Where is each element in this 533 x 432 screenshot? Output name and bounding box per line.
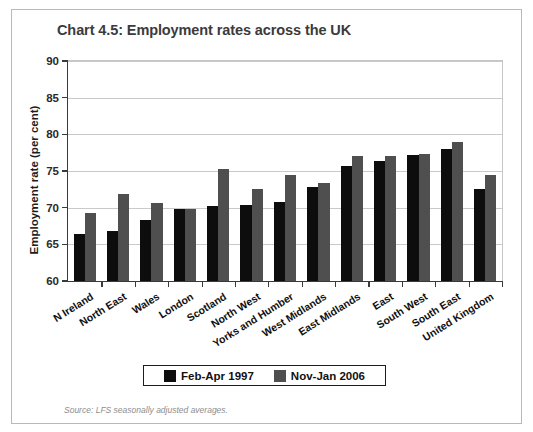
bar-group — [68, 61, 101, 281]
bar-group — [135, 61, 168, 281]
bar — [185, 209, 196, 281]
y-tick-label-75: 75 — [46, 165, 59, 177]
x-tick-mark — [469, 281, 470, 287]
x-tick-mark — [168, 281, 169, 287]
bar — [385, 156, 396, 281]
y-tick-label-65: 65 — [46, 238, 59, 250]
bar — [341, 166, 352, 281]
bar-group — [469, 61, 502, 281]
y-tick-label-70: 70 — [46, 202, 59, 214]
bar — [274, 202, 285, 281]
bar — [85, 213, 96, 281]
bar — [207, 206, 218, 281]
y-axis-title: Employment rate (per cent) — [26, 69, 42, 291]
bar — [218, 169, 229, 281]
bar — [107, 231, 118, 281]
legend-swatch — [274, 370, 286, 382]
bar — [441, 149, 452, 281]
y-tick-label-80: 80 — [46, 128, 59, 140]
bar — [151, 203, 162, 281]
chart-figure-frame: Chart 4.5: Employment rates across the U… — [11, 9, 522, 424]
x-tick-mark — [402, 281, 403, 287]
bar — [452, 142, 463, 281]
bar-group — [268, 61, 301, 281]
y-tick-label-90: 90 — [46, 55, 59, 67]
bar — [474, 189, 485, 281]
plot-area: 60657075808590N IrelandNorth EastWalesLo… — [67, 60, 503, 282]
legend-entry: Nov-Jan 2006 — [274, 370, 365, 382]
x-tick-mark — [202, 281, 203, 287]
bar — [419, 154, 430, 281]
bar-group — [302, 61, 335, 281]
bar — [240, 205, 251, 281]
bar-group — [202, 61, 235, 281]
legend-swatch — [164, 370, 176, 382]
bar — [352, 156, 363, 281]
bar — [285, 175, 296, 281]
x-tick-mark — [435, 281, 436, 287]
bar — [485, 175, 496, 281]
source-note: Source: LFS seasonally adjusted averages… — [64, 405, 228, 415]
x-tick-mark — [302, 281, 303, 287]
bar-group — [235, 61, 268, 281]
x-tick-mark — [268, 281, 269, 287]
bar-group — [335, 61, 368, 281]
bar-group — [368, 61, 401, 281]
x-tick-mark — [135, 281, 136, 287]
x-tick-mark — [101, 281, 102, 287]
x-tick-mark — [335, 281, 336, 287]
bar — [74, 234, 85, 281]
bar — [174, 209, 185, 281]
y-tick-label-60: 60 — [46, 275, 59, 287]
y-axis-title-label: Employment rate (per cent) — [28, 106, 40, 255]
bar — [374, 161, 385, 281]
x-tick-mark — [502, 281, 503, 287]
bar — [140, 220, 151, 281]
bar — [118, 194, 129, 281]
chart-title: Chart 4.5: Employment rates across the U… — [57, 22, 351, 38]
x-tick-mark — [235, 281, 236, 287]
x-tick-mark — [368, 281, 369, 287]
legend-label: Feb-Apr 1997 — [181, 370, 254, 382]
legend-entry: Feb-Apr 1997 — [164, 370, 254, 382]
bar-group — [402, 61, 435, 281]
bar — [318, 183, 329, 281]
legend-label: Nov-Jan 2006 — [291, 370, 365, 382]
bar-group — [435, 61, 468, 281]
bar-group — [168, 61, 201, 281]
bar-group — [101, 61, 134, 281]
page-header-strip — [0, 0, 533, 7]
chart-legend: Feb-Apr 1997Nov-Jan 2006 — [143, 365, 386, 386]
y-tick-label-85: 85 — [46, 92, 59, 104]
bar — [407, 155, 418, 281]
bar — [252, 189, 263, 281]
bar — [307, 187, 318, 281]
